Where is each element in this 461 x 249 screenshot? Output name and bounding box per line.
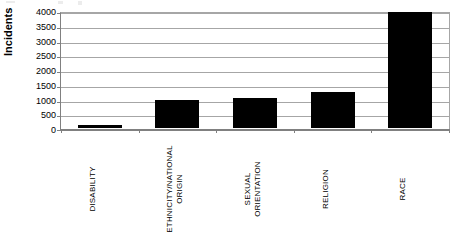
- y-axis-tick-labels: 4000 3500 3000 2500 2000 1500 1000 500 0: [22, 12, 56, 130]
- y-axis-title: Incidents: [2, 0, 16, 56]
- y-tick-label: 3000: [22, 38, 56, 47]
- bar-disability[interactable]: [78, 125, 122, 128]
- bar-race[interactable]: [388, 12, 432, 129]
- scan-artifact: [78, 1, 82, 5]
- bar-sexual-orientation[interactable]: [233, 98, 277, 128]
- y-tick-label: 1000: [22, 97, 56, 106]
- bar-slot-race: [371, 13, 449, 129]
- bar-chart: Incidents 4000 3500 3000 2500 2000 1500 …: [0, 0, 461, 249]
- x-tick-mark: [294, 129, 295, 133]
- y-tick-label: 2000: [22, 67, 56, 76]
- y-tick-label: 500: [22, 111, 56, 120]
- x-axis-labels: DISABILITY ETHNICITY/NATIONAL ORIGIN SEX…: [60, 134, 450, 246]
- x-label-disability: DISABILITY: [88, 134, 110, 244]
- plot-area: [60, 12, 450, 130]
- x-tick-mark: [449, 129, 450, 133]
- y-tick-label: 0: [22, 126, 56, 135]
- gridline-0: [61, 130, 449, 131]
- y-tick-label: 1500: [22, 82, 56, 91]
- x-tick-mark: [216, 129, 217, 133]
- bar-slot-disability: [61, 13, 139, 129]
- x-tick-mark: [61, 129, 62, 133]
- y-tick-label: 2500: [22, 52, 56, 61]
- y-tick-label: 4000: [22, 8, 56, 17]
- bar-ethnicity-national-origin[interactable]: [155, 100, 199, 128]
- x-label-sexual-orientation: SEXUAL ORIENTATION: [243, 134, 265, 244]
- bar-slot-ethnicity-national-origin: [139, 13, 217, 129]
- bar-slot-sexual-orientation: [216, 13, 294, 129]
- y-tick-label: 3500: [22, 23, 56, 32]
- x-tick-mark: [139, 129, 140, 133]
- bar-slot-religion: [294, 13, 372, 129]
- bars-layer: [61, 13, 449, 129]
- x-label-race: RACE: [398, 134, 420, 244]
- x-label-ethnicity-national-origin: ETHNICITY/NATIONAL ORIGIN: [165, 134, 187, 244]
- bar-religion[interactable]: [311, 92, 355, 128]
- x-label-religion: RELIGION: [321, 134, 343, 244]
- scan-artifact: [58, 1, 63, 4]
- x-tick-mark: [371, 129, 372, 133]
